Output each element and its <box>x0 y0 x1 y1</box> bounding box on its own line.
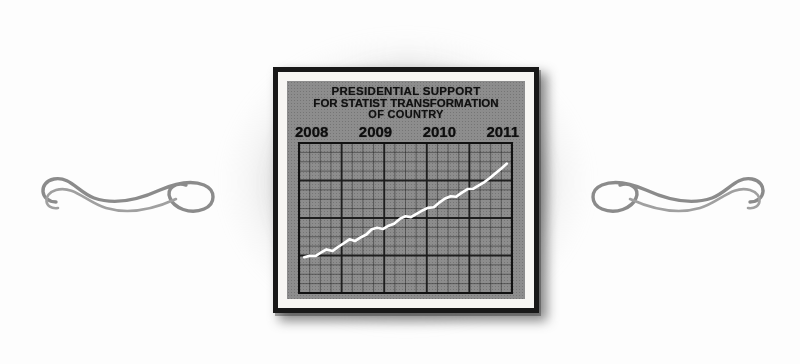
printed-chart-plate: PRESIDENTIAL SUPPORT FOR STATIST TRANSFO… <box>287 81 525 299</box>
picture-frame: PRESIDENTIAL SUPPORT FOR STATIST TRANSFO… <box>273 67 539 313</box>
swirl-flourish-left-icon <box>34 152 224 238</box>
chart-title-block: PRESIDENTIAL SUPPORT FOR STATIST TRANSFO… <box>287 81 525 121</box>
line-chart-svg <box>298 142 513 294</box>
x-tick-label-2010: 2010 <box>423 124 456 140</box>
frame-mat: PRESIDENTIAL SUPPORT FOR STATIST TRANSFO… <box>278 72 534 308</box>
x-axis-tick-labels: 2008 2009 2010 2011 <box>287 121 525 142</box>
chart-title-line-3: OF COUNTRY <box>287 109 525 121</box>
screenshot-root: PRESIDENTIAL SUPPORT FOR STATIST TRANSFO… <box>0 0 800 364</box>
x-tick-label-2008: 2008 <box>295 124 328 140</box>
chart-title-line-1: PRESIDENTIAL SUPPORT <box>287 86 525 98</box>
x-tick-label-2011: 2011 <box>486 124 519 140</box>
plot-area <box>298 142 513 294</box>
swirl-flourish-right-icon <box>582 152 772 238</box>
x-tick-label-2009: 2009 <box>359 124 392 140</box>
